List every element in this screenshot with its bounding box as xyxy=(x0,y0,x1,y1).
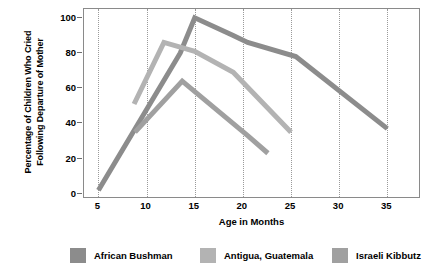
series-lines xyxy=(84,9,420,198)
x-axis-title: Age in Months xyxy=(83,216,420,227)
plot-area xyxy=(83,8,420,198)
y-tickmark xyxy=(77,52,82,53)
y-tickmark xyxy=(77,158,82,159)
chart-legend: African BushmanAntigua, GuatemalaIsraeli… xyxy=(70,246,420,266)
legend-swatch xyxy=(332,248,348,263)
y-tickmark xyxy=(77,17,82,18)
y-ticklabel: 100 xyxy=(46,11,76,22)
series-line xyxy=(98,18,387,190)
legend-item: Israeli Kibbutz xyxy=(332,246,421,264)
y-ticklabel: 60 xyxy=(46,82,76,93)
y-ticklabel: 20 xyxy=(46,152,76,163)
x-ticklabel: 20 xyxy=(227,200,257,211)
x-ticklabel: 30 xyxy=(323,200,353,211)
x-ticklabel: 25 xyxy=(275,200,305,211)
y-axis-title-line2: Following Departure of Mother xyxy=(34,38,46,166)
y-tickmark xyxy=(77,122,82,123)
y-ticklabel: 0 xyxy=(46,187,76,198)
y-tickmark xyxy=(77,193,82,194)
legend-label: Antigua, Guatemala xyxy=(224,250,313,261)
legend-label: African Bushman xyxy=(94,250,173,261)
x-ticklabel: 35 xyxy=(371,200,401,211)
legend-swatch xyxy=(200,248,216,263)
x-axis-ticklabels: 5101520253035 xyxy=(83,200,420,214)
legend-item: African Bushman xyxy=(70,246,173,264)
chart-figure: Percentage of Children Who Cried Followi… xyxy=(0,0,431,273)
legend-label: Israeli Kibbutz xyxy=(356,250,421,261)
x-ticklabel: 5 xyxy=(82,200,112,211)
y-axis-title-line1: Percentage of Children Who Cried xyxy=(22,31,34,174)
y-ticklabel: 80 xyxy=(46,46,76,57)
legend-swatch xyxy=(70,248,86,263)
y-axis-ticklabels: 020406080100 xyxy=(46,8,76,198)
y-axis-title: Percentage of Children Who Cried Followi… xyxy=(19,2,49,202)
y-tickmark xyxy=(77,87,82,88)
legend-item: Antigua, Guatemala xyxy=(200,246,313,264)
y-ticklabel: 40 xyxy=(46,117,76,128)
x-ticklabel: 10 xyxy=(131,200,161,211)
x-ticklabel: 15 xyxy=(179,200,209,211)
